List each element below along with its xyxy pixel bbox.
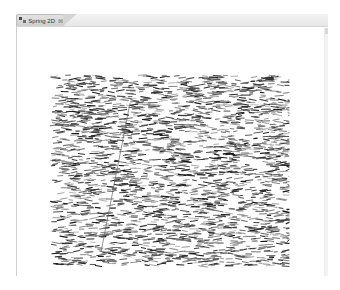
graph-edges [50,75,289,267]
graph-canvas[interactable] [0,0,340,290]
